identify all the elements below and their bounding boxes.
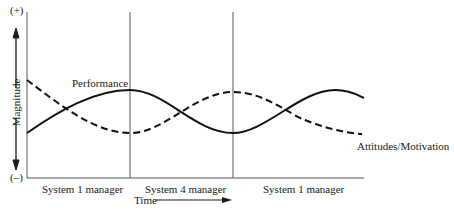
- phase-3-label: System 1 manager: [263, 184, 344, 195]
- time-label: Time: [134, 195, 157, 206]
- performance-curve: [27, 90, 364, 133]
- magnitude-label: Magnitude: [11, 77, 22, 129]
- phase-2-label: System 4 manager: [145, 184, 226, 195]
- y-minus-label: (–): [10, 172, 23, 183]
- performance-label: Performance: [72, 78, 128, 89]
- chart-canvas: [0, 0, 454, 211]
- time-arrow: [155, 197, 232, 203]
- phase-1-label: System 1 manager: [42, 184, 123, 195]
- attitudes-label: Attitudes/Motivation: [357, 141, 449, 152]
- y-plus-label: (+): [10, 5, 24, 16]
